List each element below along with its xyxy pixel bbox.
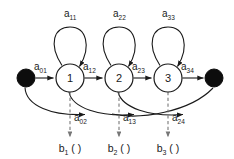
hmm-state-diagram: 1 2 3 a11 a22 a33 a01 a12 <box>0 0 234 159</box>
label-a23: a23 <box>132 61 145 74</box>
state-node-1-label: 1 <box>67 72 73 84</box>
label-a02: a02 <box>74 112 87 125</box>
state-node-2-label: 2 <box>116 72 122 84</box>
self-loop-a11 <box>54 27 86 67</box>
diagram-canvas: 1 2 3 a11 a22 a33 a01 a12 <box>0 0 234 159</box>
label-a24: a24 <box>172 112 185 125</box>
edge-a02 <box>25 88 85 115</box>
emission-label-b2: b2 ( ) <box>108 142 131 156</box>
self-loops-group <box>54 27 184 67</box>
label-a01: a01 <box>34 61 47 74</box>
emission-label-b1: b1 ( ) <box>59 142 82 156</box>
self-loop-a33 <box>152 27 184 67</box>
end-node[interactable] <box>205 69 223 87</box>
emission-label-b3: b3 ( ) <box>157 142 180 156</box>
emission-labels-group: b1 ( ) b2 ( ) b3 ( ) <box>59 142 180 156</box>
state-node-3-label: 3 <box>165 72 171 84</box>
label-a13: a13 <box>123 112 136 125</box>
label-a12: a12 <box>83 61 96 74</box>
label-a33: a33 <box>162 8 175 21</box>
label-a22: a22 <box>113 8 126 21</box>
self-loop-labels-group: a11 a22 a33 <box>64 8 175 21</box>
start-node[interactable] <box>17 69 35 87</box>
label-a34: a34 <box>181 61 194 74</box>
self-loop-a22 <box>103 27 135 67</box>
label-a11: a11 <box>64 8 77 21</box>
